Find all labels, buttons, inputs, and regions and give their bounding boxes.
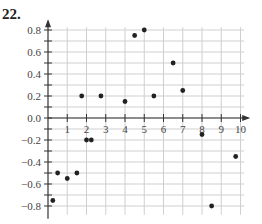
data-point bbox=[99, 94, 104, 99]
data-point bbox=[123, 99, 128, 104]
data-point bbox=[50, 198, 55, 203]
y-tick-label: −0.4 bbox=[21, 156, 41, 168]
data-point bbox=[55, 171, 60, 176]
x-tick-label: 10 bbox=[235, 123, 247, 135]
x-tick-label: 5 bbox=[142, 123, 148, 135]
data-point bbox=[209, 204, 214, 209]
y-tick-label: 0.2 bbox=[27, 90, 41, 102]
data-point bbox=[132, 33, 137, 38]
data-point bbox=[151, 94, 156, 99]
data-point bbox=[74, 171, 79, 176]
axes bbox=[44, 19, 250, 219]
x-tick-label: 9 bbox=[219, 123, 225, 135]
x-tick-label: 7 bbox=[180, 123, 186, 135]
y-tick-label: −0.6 bbox=[21, 178, 41, 190]
grid-lines bbox=[48, 27, 244, 215]
data-point bbox=[84, 138, 89, 143]
x-tick-label: 6 bbox=[161, 123, 167, 135]
scatter-plot: 123456789100.80.60.40.20.0−0.2−0.4−0.6−0… bbox=[0, 0, 262, 224]
y-tick-label: 0.4 bbox=[27, 68, 41, 80]
data-point bbox=[65, 176, 70, 181]
data-point bbox=[171, 61, 176, 66]
data-point bbox=[89, 138, 94, 143]
y-tick-label: 0.0 bbox=[27, 112, 41, 124]
y-tick-label: 0.8 bbox=[27, 24, 41, 36]
x-axis-arrow-icon bbox=[242, 115, 250, 121]
x-tick-label: 1 bbox=[65, 123, 71, 135]
x-tick-label: 2 bbox=[84, 123, 90, 135]
data-point bbox=[233, 154, 238, 159]
data-point bbox=[200, 132, 205, 137]
y-axis-arrow-icon bbox=[45, 19, 51, 27]
y-tick-label: −0.2 bbox=[21, 134, 41, 146]
x-tick-label: 3 bbox=[103, 123, 109, 135]
data-point bbox=[142, 28, 147, 33]
data-point bbox=[79, 94, 84, 99]
x-tick-label: 4 bbox=[122, 123, 128, 135]
data-point bbox=[180, 88, 185, 93]
y-tick-label: −0.8 bbox=[21, 200, 41, 212]
y-tick-label: 0.6 bbox=[27, 46, 41, 58]
